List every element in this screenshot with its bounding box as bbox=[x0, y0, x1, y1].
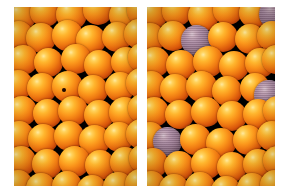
micrograph-figure bbox=[0, 0, 290, 196]
right-panel bbox=[147, 7, 275, 186]
surface-defect-dot bbox=[62, 88, 66, 92]
left-panel bbox=[14, 7, 137, 186]
